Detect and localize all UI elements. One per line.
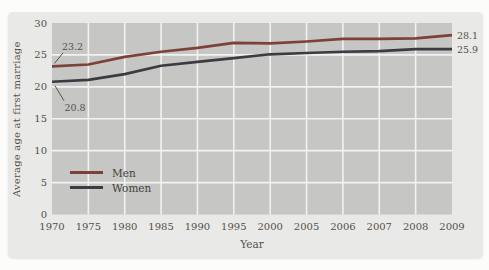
x-tick-label: 1980 <box>112 221 137 232</box>
y-tick-label: 20 <box>34 81 47 92</box>
x-tick-label: 2007 <box>367 221 392 232</box>
y-tick-label: 0 <box>41 209 47 220</box>
x-tick-label: 1985 <box>148 221 173 232</box>
y-tick-label: 5 <box>41 177 47 188</box>
y-axis-title: Average age at first marriage <box>8 23 24 215</box>
legend-label-women: Women <box>112 182 151 194</box>
data-label-men-start: 23.2 <box>62 41 83 52</box>
x-tick-label: 1975 <box>76 221 101 232</box>
y-tick-label: 10 <box>34 145 47 156</box>
x-tick-label: 2005 <box>294 221 319 232</box>
chart-svg: 0510152025301970197519801985199019952000… <box>0 0 489 270</box>
x-tick-label: 2008 <box>403 221 428 232</box>
x-tick-label: 1995 <box>221 221 246 232</box>
x-tick-label: 2006 <box>330 221 355 232</box>
women-line-swatch <box>70 186 103 189</box>
data-label-women-end: 25.9 <box>457 44 478 55</box>
x-tick-label: 1970 <box>39 221 64 232</box>
legend-item-women: Women <box>70 180 151 195</box>
men-line-swatch <box>70 171 103 174</box>
data-label-women-start: 20.8 <box>64 102 85 113</box>
page: 0510152025301970197519801985199019952000… <box>0 0 489 270</box>
x-tick-label: 1990 <box>185 221 210 232</box>
x-tick-label: 2009 <box>439 221 464 232</box>
legend-item-men: Men <box>70 165 151 180</box>
y-tick-label: 25 <box>34 49 47 60</box>
y-tick-label: 30 <box>34 18 47 29</box>
legend: Men Women <box>70 165 151 195</box>
legend-label-men: Men <box>112 167 136 179</box>
x-axis-title: Year <box>52 238 452 250</box>
data-label-men-end: 28.1 <box>457 30 478 41</box>
y-tick-label: 15 <box>34 113 47 124</box>
x-tick-label: 2000 <box>257 221 282 232</box>
